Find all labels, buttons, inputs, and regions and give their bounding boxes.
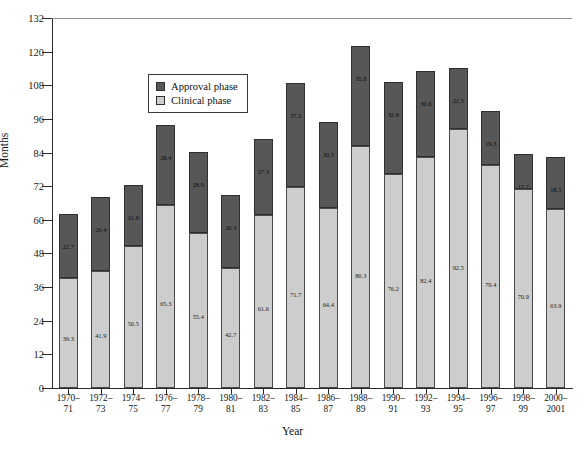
bar-stack: 55.428.9 bbox=[189, 152, 208, 388]
bar-value-label-approval: 28.9 bbox=[193, 181, 204, 188]
y-axis-tick-label: 48 bbox=[8, 248, 44, 259]
bar-value-label-approval: 27.3 bbox=[258, 168, 269, 175]
bar-value-label-clinical: 65.3 bbox=[160, 300, 171, 307]
y-axis-tick-label: 36 bbox=[8, 282, 44, 293]
bar-value-label-clinical: 92.5 bbox=[453, 264, 464, 271]
x-axis-tick-labels: 1970–711972–731974–751976–771978–791980–… bbox=[52, 393, 572, 427]
bar-value-label-approval: 22.7 bbox=[63, 243, 74, 250]
bar-stack: 76.232.8 bbox=[384, 82, 403, 388]
x-axis-title: Year bbox=[0, 425, 585, 437]
y-axis-tick-label: 120 bbox=[8, 46, 44, 57]
bar-value-label-approval: 12.7 bbox=[518, 183, 529, 190]
bar-value-label-clinical: 70.9 bbox=[518, 293, 529, 300]
bar-stack: 42.726.3 bbox=[221, 195, 240, 388]
bar-segment-approval: 30.6 bbox=[416, 71, 435, 157]
bar-value-label-approval: 30.6 bbox=[420, 100, 431, 107]
bar-segment-clinical: 70.9 bbox=[514, 189, 533, 388]
x-axis-tick-label: 2000–2001 bbox=[534, 393, 578, 416]
bar-segment-approval: 22.7 bbox=[59, 214, 78, 278]
bar-segment-clinical: 61.6 bbox=[254, 215, 273, 388]
bar-segment-approval: 21.8 bbox=[124, 185, 143, 246]
y-axis-tick-label: 24 bbox=[8, 315, 44, 326]
bar-segment-clinical: 86.3 bbox=[351, 146, 370, 388]
bar-value-label-approval: 21.5 bbox=[453, 97, 464, 104]
bar-value-label-clinical: 41.9 bbox=[95, 332, 106, 339]
bar-value-label-approval: 32.8 bbox=[388, 111, 399, 118]
y-axis-title: Months bbox=[0, 133, 10, 168]
bar-segment-approval: 21.5 bbox=[449, 68, 468, 128]
bar-segment-clinical: 50.5 bbox=[124, 246, 143, 388]
bar-stack: 92.521.5 bbox=[449, 68, 468, 388]
bar-value-label-clinical: 50.5 bbox=[128, 320, 139, 327]
bar-value-label-approval: 28.4 bbox=[160, 154, 171, 161]
bar-segment-clinical: 92.5 bbox=[449, 129, 468, 388]
y-axis-tick-label: 132 bbox=[8, 13, 44, 24]
bar-segment-approval: 18.5 bbox=[546, 157, 565, 209]
bar-series-container: 39.322.741.926.450.521.865.328.455.428.9… bbox=[52, 18, 572, 388]
bar-stack: 71.737.2 bbox=[286, 83, 305, 388]
bar-segment-approval: 19.3 bbox=[481, 111, 500, 165]
y-axis-tick-label: 0 bbox=[8, 383, 44, 394]
legend-swatch-approval-icon bbox=[156, 82, 165, 91]
bar-segment-clinical: 76.2 bbox=[384, 174, 403, 388]
bar-value-label-clinical: 63.9 bbox=[550, 302, 561, 309]
y-axis-tick-label: 72 bbox=[8, 181, 44, 192]
bar-value-label-clinical: 39.3 bbox=[63, 335, 74, 342]
bar-stack: 70.912.7 bbox=[514, 154, 533, 388]
bar-segment-clinical: 71.7 bbox=[286, 187, 305, 388]
bar-segment-clinical: 65.3 bbox=[156, 205, 175, 388]
bar-segment-approval: 35.8 bbox=[351, 46, 370, 146]
bar-segment-approval: 27.3 bbox=[254, 139, 273, 216]
bar-segment-clinical: 79.4 bbox=[481, 165, 500, 388]
y-axis-tick-label: 60 bbox=[8, 214, 44, 225]
bar-stack: 64.430.5 bbox=[319, 122, 338, 388]
bar-value-label-clinical: 79.4 bbox=[485, 281, 496, 288]
bar-stack: 61.627.3 bbox=[254, 139, 273, 388]
bar-value-label-clinical: 42.7 bbox=[225, 331, 236, 338]
bar-segment-approval: 26.3 bbox=[221, 195, 240, 269]
bar-stack: 79.419.3 bbox=[481, 111, 500, 388]
bar-value-label-clinical: 86.3 bbox=[355, 272, 366, 279]
bar-segment-clinical: 42.7 bbox=[221, 268, 240, 388]
bar-segment-clinical: 39.3 bbox=[59, 278, 78, 388]
bar-segment-approval: 28.4 bbox=[156, 125, 175, 205]
legend: Approval phase Clinical phase bbox=[148, 74, 248, 113]
plot-area: 01224364860728496108120132 39.322.741.92… bbox=[52, 18, 572, 388]
bar-segment-approval: 28.9 bbox=[189, 152, 208, 233]
legend-item-approval: Approval phase bbox=[156, 79, 238, 93]
bar-stack: 86.335.8 bbox=[351, 46, 370, 388]
bar-stack: 63.918.5 bbox=[546, 157, 565, 388]
bar-segment-clinical: 64.4 bbox=[319, 208, 338, 389]
bar-value-label-approval: 19.3 bbox=[485, 140, 496, 147]
bar-value-label-clinical: 76.2 bbox=[388, 285, 399, 292]
y-axis-tick-label: 96 bbox=[8, 113, 44, 124]
bar-value-label-clinical: 55.4 bbox=[193, 313, 204, 320]
bar-segment-clinical: 63.9 bbox=[546, 209, 565, 388]
bar-value-label-approval: 21.8 bbox=[128, 214, 139, 221]
y-axis-tick-label: 84 bbox=[8, 147, 44, 158]
bar-segment-approval: 30.5 bbox=[319, 122, 338, 207]
bar-segment-approval: 26.4 bbox=[91, 197, 110, 271]
bar-value-label-clinical: 64.4 bbox=[323, 301, 334, 308]
bar-stack: 65.328.4 bbox=[156, 125, 175, 388]
bar-value-label-approval: 18.5 bbox=[550, 186, 561, 193]
bar-stack: 39.322.7 bbox=[59, 214, 78, 388]
x-axis-tick-label-top: 2000– bbox=[534, 393, 578, 404]
bar-segment-approval: 37.2 bbox=[286, 83, 305, 187]
bar-stack: 41.926.4 bbox=[91, 197, 110, 388]
bar-value-label-approval: 26.4 bbox=[95, 226, 106, 233]
legend-label-approval: Approval phase bbox=[171, 81, 238, 92]
bar-value-label-approval: 26.3 bbox=[225, 224, 236, 231]
bar-value-label-clinical: 82.4 bbox=[420, 277, 431, 284]
bar-value-label-approval: 35.8 bbox=[355, 75, 366, 82]
bar-segment-approval: 12.7 bbox=[514, 154, 533, 190]
y-axis-tick-label: 108 bbox=[8, 80, 44, 91]
legend-label-clinical: Clinical phase bbox=[171, 95, 231, 106]
x-axis-tick-label-bottom: 2001 bbox=[534, 404, 578, 415]
bar-value-label-clinical: 71.7 bbox=[290, 291, 301, 298]
legend-item-clinical: Clinical phase bbox=[156, 93, 238, 107]
bar-segment-clinical: 55.4 bbox=[189, 233, 208, 388]
y-axis-tick-label: 12 bbox=[8, 349, 44, 360]
bar-value-label-approval: 30.5 bbox=[323, 151, 334, 158]
bar-segment-clinical: 82.4 bbox=[416, 157, 435, 388]
